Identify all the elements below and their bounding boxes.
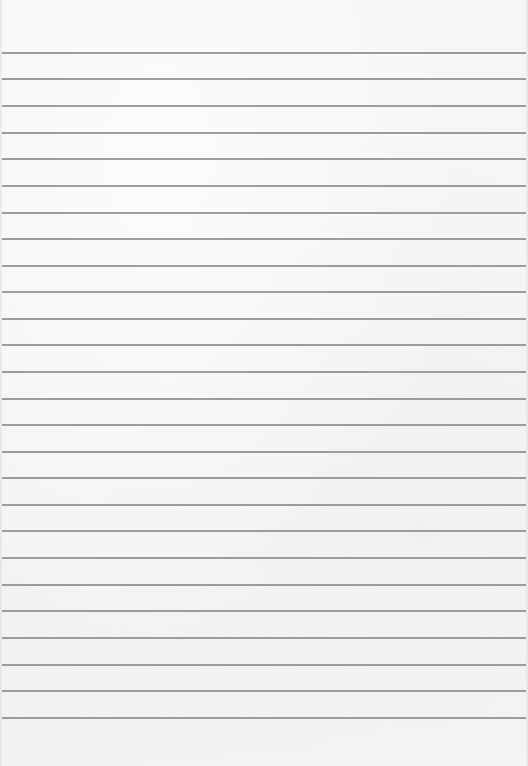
- ruled-line: [2, 105, 526, 107]
- ruled-line: [2, 158, 526, 160]
- ruled-line: [2, 344, 526, 346]
- ruled-line: [2, 424, 526, 426]
- ruled-line: [2, 530, 526, 532]
- ruled-line: [2, 398, 526, 400]
- ruled-line: [2, 318, 526, 320]
- ruled-line: [2, 132, 526, 134]
- ruled-line: [2, 238, 526, 240]
- ruled-line: [2, 637, 526, 639]
- ruled-line: [2, 212, 526, 214]
- paper-edge-left: [0, 0, 3, 766]
- ruled-line: [2, 52, 526, 54]
- ruled-line: [2, 690, 526, 692]
- lined-paper-sheet: [0, 0, 528, 766]
- ruled-line: [2, 185, 526, 187]
- ruled-line: [2, 557, 526, 559]
- ruled-line: [2, 504, 526, 506]
- ruled-line: [2, 664, 526, 666]
- ruled-line: [2, 451, 526, 453]
- ruled-line: [2, 371, 526, 373]
- ruled-line: [2, 610, 526, 612]
- ruled-line: [2, 717, 526, 719]
- ruled-line: [2, 477, 526, 479]
- ruled-line: [2, 291, 526, 293]
- ruled-line: [2, 584, 526, 586]
- ruled-line: [2, 78, 526, 80]
- ruled-line: [2, 265, 526, 267]
